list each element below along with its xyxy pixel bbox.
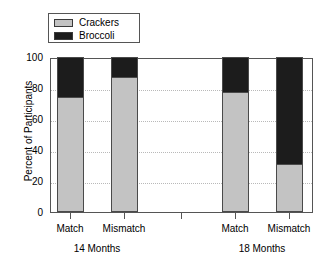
bar-segment-broccoli [277,58,302,165]
y-tick-label-100: 100 [13,53,43,63]
bar-segment-crackers [58,98,83,211]
gridline-80 [51,90,312,91]
gridline-60 [51,121,312,122]
y-tick-label-40: 40 [13,146,43,156]
stacked-bar-chart: Crackers Broccoli Percent of Participant… [0,0,327,265]
x-tick-mark-mid [181,213,182,219]
legend-swatch-crackers [54,19,73,27]
legend-label-broccoli: Broccoli [79,31,115,41]
gridline-40 [51,152,312,153]
bar-segment-broccoli [223,58,248,93]
bar-18months-mismatch [276,57,303,212]
x-tick-mark-3 [235,213,236,219]
y-tick-label-20: 20 [13,177,43,187]
legend-item-broccoli: Broccoli [54,30,134,42]
legend-swatch-broccoli [54,32,73,40]
bar-segment-broccoli [58,58,83,98]
bar-segment-crackers [277,165,302,211]
bar-18months-match [222,57,249,212]
x-axis-group-label-14months: 14 Months [52,243,142,254]
y-tick-label-60: 60 [13,115,43,125]
bar-segment-crackers [112,78,137,211]
x-tick-mark-1 [70,213,71,219]
x-tick-mark-4 [289,213,290,219]
x-axis-group-label-18months: 18 Months [217,243,307,254]
bar-14months-mismatch [111,57,138,212]
plot-area [50,58,313,213]
y-tick-label-0: 0 [13,208,43,218]
legend-item-crackers: Crackers [54,17,134,29]
x-axis-label-18months-mismatch: Mismatch [254,223,324,234]
bar-segment-broccoli [112,58,137,78]
bar-segment-crackers [223,93,248,211]
gridline-20 [51,183,312,184]
bar-14months-match [57,57,84,212]
x-axis-label-14months-mismatch: Mismatch [89,223,159,234]
legend-label-crackers: Crackers [79,18,119,28]
x-tick-mark-2 [124,213,125,219]
chart-legend: Crackers Broccoli [48,13,140,43]
y-tick-label-80: 80 [13,84,43,94]
